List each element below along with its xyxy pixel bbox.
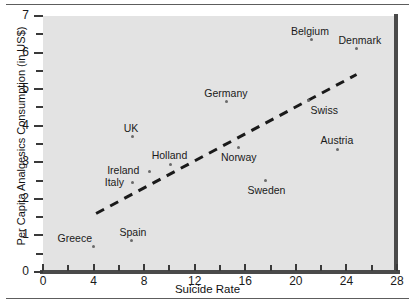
data-point	[92, 245, 95, 248]
x-tick-major	[42, 264, 44, 271]
x-tick-minor	[371, 265, 373, 271]
x-tick-minor	[270, 265, 272, 271]
y-tick-major	[34, 234, 43, 236]
x-tick-major	[345, 264, 347, 271]
y-tick-major	[34, 15, 43, 17]
data-point-label: Belgium	[291, 26, 329, 37]
x-tick-major	[244, 264, 246, 271]
data-point-label: Sweden	[248, 185, 286, 196]
x-tick-minor	[219, 265, 221, 271]
y-tick-major	[34, 125, 43, 127]
data-point	[307, 99, 310, 102]
y-tick-minor	[36, 33, 43, 35]
bottom-rule	[6, 298, 409, 299]
y-tick-minor	[36, 70, 43, 72]
y-axis-title: Per Capita Analgesics Consumption (in US…	[15, 11, 27, 261]
y-tick-label: 0	[15, 266, 29, 276]
data-point-label: Ireland	[107, 165, 139, 176]
data-point	[310, 38, 313, 41]
data-point-label: Greece	[58, 233, 92, 244]
top-rule	[6, 4, 409, 5]
data-point-label: Norway	[221, 152, 257, 163]
y-tick-minor	[36, 180, 43, 182]
x-tick-major	[295, 264, 297, 271]
data-point	[169, 163, 172, 166]
data-point-label: Italy	[105, 177, 124, 188]
data-point-label: UK	[124, 123, 139, 134]
y-tick-major	[34, 161, 43, 163]
y-tick-major	[34, 271, 43, 273]
y-axis-line-right	[394, 14, 398, 274]
data-point-label: Spain	[120, 227, 147, 238]
data-point	[148, 170, 151, 173]
scatter-chart-figure: 01234567 0481216202428 GreeceSpainItalyU…	[0, 0, 415, 306]
y-tick-minor	[36, 143, 43, 145]
x-tick-major	[396, 264, 398, 271]
data-point-label: Austria	[321, 135, 354, 146]
y-tick-minor	[36, 253, 43, 255]
x-tick-minor	[67, 265, 69, 271]
x-tick-minor	[320, 265, 322, 271]
y-tick-major	[34, 198, 43, 200]
y-tick-major	[34, 88, 43, 90]
y-tick-minor	[36, 216, 43, 218]
x-tick-major	[143, 264, 145, 271]
x-tick-minor	[118, 265, 120, 271]
y-tick-major	[34, 52, 43, 54]
x-tick-major	[93, 264, 95, 271]
data-point-label: Holland	[152, 150, 188, 161]
x-tick-major	[194, 264, 196, 271]
y-tick-minor	[36, 106, 43, 108]
x-axis-title: Suicide Rate	[0, 283, 415, 295]
data-point-label: Denmark	[339, 35, 382, 46]
data-point-label: Germany	[204, 88, 247, 99]
x-tick-minor	[168, 265, 170, 271]
data-point-label: Swiss	[311, 105, 338, 116]
